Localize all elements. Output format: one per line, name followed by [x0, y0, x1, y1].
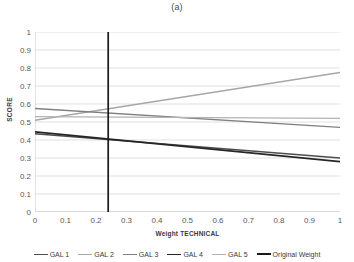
- legend-item-label: GAL 2: [94, 251, 114, 258]
- x-tick-label: 0.8: [273, 216, 284, 225]
- legend-item[interactable]: Original Weight: [257, 251, 321, 258]
- legend-line-swatch-icon: [78, 254, 92, 255]
- gridlines: [35, 32, 340, 212]
- y-tick-label: 0.8: [20, 64, 31, 73]
- chart-plot-svg: [35, 32, 340, 212]
- chart-container: SCORE 00.10.20.30.40.50.60.70.80.91 00.1…: [0, 18, 354, 262]
- x-tick-label: 0: [33, 216, 37, 225]
- legend-item-label: GAL 5: [228, 251, 248, 258]
- legend-line-swatch-icon: [212, 254, 226, 255]
- y-tick-label: 0.2: [20, 172, 31, 181]
- legend-line-swatch-icon: [34, 254, 48, 255]
- x-tick-label: 0.3: [121, 216, 132, 225]
- x-tick-label: 0.4: [151, 216, 162, 225]
- y-axis-tick-labels: 00.10.20.30.40.50.60.70.80.91: [0, 32, 31, 212]
- x-tick-label: 0.2: [90, 216, 101, 225]
- y-tick-label: 0.6: [20, 100, 31, 109]
- legend-line-swatch-icon: [257, 253, 271, 255]
- legend-item[interactable]: GAL 4: [167, 251, 203, 258]
- chart-legend: GAL 1GAL 2GAL 3GAL 4GAL 5Original Weight: [0, 246, 354, 262]
- plot-area: [35, 32, 340, 212]
- x-tick-label: 0.6: [212, 216, 223, 225]
- x-axis-tick-labels: 00.10.20.30.40.50.60.70.80.91: [35, 216, 340, 230]
- legend-item[interactable]: GAL 1: [34, 251, 70, 258]
- figure-caption: (a): [0, 2, 354, 12]
- y-tick-label: 0.5: [20, 118, 31, 127]
- legend-item-label: GAL 1: [50, 251, 70, 258]
- y-tick-label: 0.1: [20, 190, 31, 199]
- x-tick-label: 0.9: [304, 216, 315, 225]
- legend-item-label: GAL 3: [139, 251, 159, 258]
- legend-item-label: GAL 4: [183, 251, 203, 258]
- legend-line-swatch-icon: [123, 254, 137, 255]
- legend-line-swatch-icon: [167, 254, 181, 255]
- legend-item[interactable]: GAL 5: [212, 251, 248, 258]
- x-tick-label: 1: [338, 216, 342, 225]
- legend-item-label: Original Weight: [273, 251, 321, 258]
- x-axis-title: Weight TECHNICAL: [35, 230, 340, 237]
- legend-item[interactable]: GAL 3: [123, 251, 159, 258]
- x-tick-label: 0.1: [60, 216, 71, 225]
- y-tick-label: 0.7: [20, 82, 31, 91]
- y-tick-label: 0.4: [20, 136, 31, 145]
- y-tick-label: 1: [27, 28, 31, 37]
- x-tick-label: 0.5: [182, 216, 193, 225]
- x-tick-label: 0.7: [243, 216, 254, 225]
- legend-item[interactable]: GAL 2: [78, 251, 114, 258]
- y-tick-label: 0.3: [20, 154, 31, 163]
- y-tick-label: 0.9: [20, 46, 31, 55]
- y-tick-label: 0: [27, 208, 31, 217]
